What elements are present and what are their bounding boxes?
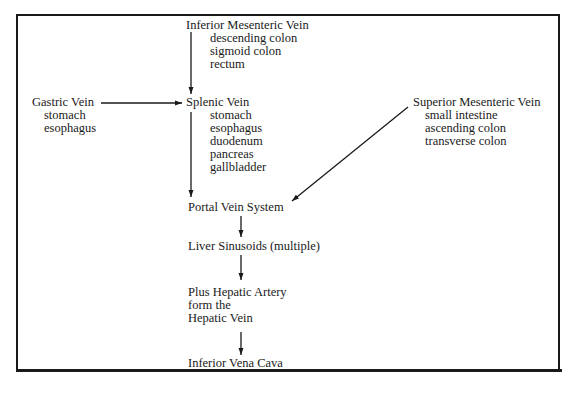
- node-inferior-mesenteric-vein: Inferior Mesenteric Vein descending colo…: [186, 19, 309, 71]
- node-title: Inferior Vena Cava: [188, 357, 283, 370]
- node-superior-mesenteric-vein: Superior Mesenteric Vein small intestine…: [413, 96, 541, 148]
- node-portal-vein-system: Portal Vein System: [188, 201, 284, 214]
- node-inferior-vena-cava: Inferior Vena Cava: [188, 357, 283, 370]
- node-splenic-vein: Splenic Vein stomach esophagus duodenum …: [186, 96, 266, 174]
- drain-item: transverse colon: [413, 135, 541, 148]
- drain-item: gallbladder: [186, 161, 266, 174]
- drain-item: sigmoid colon: [186, 45, 309, 58]
- node-title: Portal Vein System: [188, 201, 284, 214]
- node-hepatic-vein: Plus Hepatic Artery form the Hepatic Vei…: [188, 286, 287, 325]
- node-liver-sinusoids: Liver Sinusoids (multiple): [188, 240, 320, 253]
- node-title: Liver Sinusoids (multiple): [188, 240, 320, 253]
- node-gastric-vein: Gastric Vein stomach esophagus: [32, 96, 96, 135]
- drain-item: rectum: [186, 58, 309, 71]
- frame-bottom-rule: [16, 369, 562, 372]
- node-line: Hepatic Vein: [188, 312, 287, 325]
- drain-item: esophagus: [32, 122, 96, 135]
